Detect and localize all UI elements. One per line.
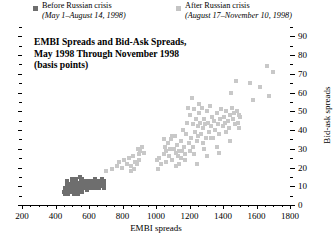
left-tick — [19, 196, 22, 197]
data-point — [137, 152, 141, 156]
data-point — [131, 154, 135, 158]
x-tick — [72, 205, 73, 207]
x-tick — [257, 205, 258, 209]
x-tick-label: 1400 — [214, 211, 232, 221]
data-point — [174, 164, 178, 168]
data-point — [184, 132, 188, 136]
chart-figure: Before Russian crisis (May 1–August 14, … — [0, 0, 334, 249]
data-point — [104, 169, 108, 173]
data-point — [196, 124, 200, 128]
data-point — [185, 121, 189, 125]
x-tick — [39, 205, 40, 207]
data-point — [155, 158, 159, 162]
legend-swatch-after-icon — [176, 6, 181, 11]
data-point — [205, 154, 209, 158]
data-point — [179, 139, 183, 143]
x-tick — [139, 205, 140, 207]
data-point — [228, 139, 232, 143]
left-tick — [18, 111, 22, 112]
left-tick — [18, 93, 22, 94]
legend-period-before: (May 1–August 14, 1998) — [42, 11, 126, 21]
data-point — [198, 121, 202, 125]
x-tick-label: 200 — [15, 211, 29, 221]
data-point — [230, 106, 234, 110]
data-point — [175, 143, 179, 147]
data-point — [233, 122, 237, 126]
data-point — [202, 147, 206, 151]
data-point — [216, 122, 220, 126]
data-point — [140, 145, 144, 149]
x-tick — [64, 205, 65, 207]
x-tick — [47, 205, 48, 207]
x-tick-label: 1200 — [181, 211, 199, 221]
data-point — [182, 145, 186, 149]
left-tick — [19, 27, 22, 28]
y-tick — [290, 93, 295, 94]
y-tick — [290, 102, 293, 103]
left-tick — [18, 55, 22, 56]
data-point — [183, 152, 187, 156]
data-point — [201, 126, 205, 130]
y-axis-title: Bid-ask spreads — [322, 86, 332, 143]
y-tick-label: 50 — [298, 106, 307, 116]
data-point — [221, 124, 225, 128]
data-point — [226, 119, 230, 123]
legend-label-before: Before Russian crisis — [42, 1, 126, 11]
y-tick-label: 90 — [298, 31, 307, 41]
data-point — [197, 111, 201, 115]
x-tick — [273, 205, 274, 207]
data-point — [217, 151, 221, 155]
data-point — [120, 166, 124, 170]
data-point — [137, 158, 141, 162]
data-point — [191, 122, 195, 126]
data-point — [159, 162, 163, 166]
y-tick — [290, 139, 293, 140]
y-tick-label: 10 — [298, 181, 307, 191]
x-tick — [181, 205, 182, 207]
data-point — [208, 104, 212, 108]
x-tick — [22, 205, 23, 209]
x-tick — [123, 205, 124, 209]
y-tick — [290, 36, 295, 37]
data-point — [207, 130, 211, 134]
left-tick — [19, 121, 22, 122]
data-point — [187, 141, 191, 145]
data-point — [110, 167, 114, 171]
data-point — [191, 145, 195, 149]
data-point — [164, 160, 168, 164]
data-point — [215, 111, 219, 115]
data-point — [234, 79, 238, 83]
legend-label-after: After Russian crisis — [185, 1, 292, 11]
x-tick — [97, 205, 98, 207]
x-tick — [215, 205, 216, 207]
y-tick — [290, 83, 293, 84]
data-point — [267, 94, 271, 98]
plot-area: 20040060080010001200140016001800 0102030… — [22, 27, 290, 205]
left-tick — [19, 46, 22, 47]
x-axis-title: EMBI spreads — [130, 223, 182, 233]
data-point — [204, 136, 208, 140]
data-point — [177, 149, 181, 153]
data-point — [162, 137, 166, 141]
data-point — [142, 151, 146, 155]
data-point — [237, 126, 241, 130]
data-point — [188, 113, 192, 117]
data-point — [195, 162, 199, 166]
y-tick-label: 0 — [298, 200, 303, 210]
left-tick — [18, 186, 22, 187]
data-point — [197, 102, 201, 106]
y-tick — [290, 121, 293, 122]
data-point — [190, 96, 194, 100]
y-tick — [290, 27, 293, 28]
left-tick — [19, 177, 22, 178]
data-point — [91, 181, 95, 185]
data-point — [93, 177, 97, 181]
y-tick-label: 40 — [298, 125, 307, 135]
data-point — [209, 136, 213, 140]
x-tick — [30, 205, 31, 207]
data-point — [168, 147, 172, 151]
y-tick — [290, 158, 293, 159]
y-tick — [290, 205, 295, 206]
data-point — [72, 181, 76, 185]
data-point — [209, 124, 213, 128]
